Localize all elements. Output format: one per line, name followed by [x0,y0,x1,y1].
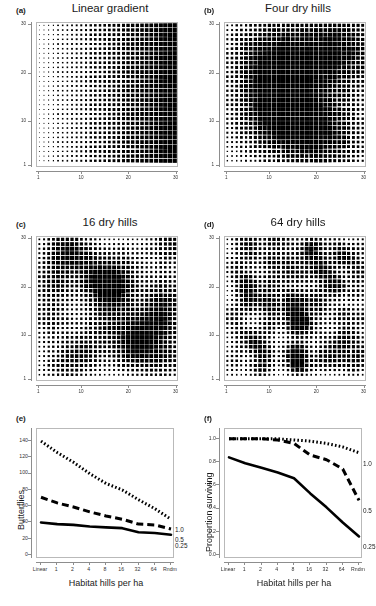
panel-b-letter: (b) [204,6,214,15]
y-axis-line [219,22,220,167]
panel-b-title: Four dry hills [228,2,368,14]
y-axis-tick [28,24,31,25]
y-axis-tick [216,73,219,74]
panel-f-plot-area [224,428,362,558]
curve-label-0-25: 0.25 [363,543,375,550]
x-axis-tick [154,562,155,565]
panel-e-yaxis-title: Butterflies [16,490,26,530]
y-axis-tick [216,438,219,439]
x-axis-tick [105,562,106,565]
y-axis-tick-label: 10 [14,118,26,123]
y-axis-line [219,236,220,381]
y-axis-line [219,428,220,558]
x-axis-tick-label: 30 [359,175,369,180]
x-axis-tick-label: 10 [264,175,274,180]
y-axis-tick [216,287,219,288]
x-axis-tick [176,385,177,388]
x-axis-tick [81,171,82,174]
x-axis-tick-label: 10 [76,175,86,180]
x-axis-tick [293,562,294,565]
y-axis-tick-label: 20 [14,284,26,289]
y-axis-tick [28,379,31,380]
x-axis-tick [170,562,171,565]
y-axis-tick [28,489,31,490]
x-axis-tick-label: 1 [33,175,43,180]
series-line-1-0 [229,439,359,453]
x-axis-tick [364,385,365,388]
y-axis-tick [216,335,219,336]
x-axis-tick [342,562,343,565]
x-axis-tick [121,562,122,565]
y-axis-tick [28,287,31,288]
x-axis-tick [89,562,90,565]
x-axis-tick [358,562,359,565]
x-axis-tick [269,171,270,174]
x-axis-tick [38,385,39,388]
x-axis-tick [40,562,41,565]
curve-label-0-25: 0.25 [175,542,187,549]
y-axis-tick-label: 30 [202,21,214,26]
y-axis-tick-label: 1.0 [199,435,216,441]
y-axis-tick [28,538,31,539]
x-axis-tick [269,385,270,388]
x-axis-tick [128,385,129,388]
y-axis-tick [216,121,219,122]
x-axis-tick-label: 20 [311,175,321,180]
panel-a-dot-grid [37,23,177,166]
x-axis-tick-label: 1 [221,175,231,180]
y-axis-tick-label: 1 [14,162,26,167]
panel-c-dot-grid [37,237,177,380]
y-axis-tick [28,73,31,74]
y-axis-tick-label: 20 [202,284,214,289]
y-axis-tick-label: 30 [14,235,26,240]
x-axis-tick [364,171,365,174]
y-axis-tick [216,461,219,462]
curve-label-1-0: 1.0 [175,526,184,533]
x-axis-tick-label: 20 [311,389,321,394]
x-axis-tick [81,385,82,388]
x-axis-tick [226,171,227,174]
panel-c-title: 16 dry hills [40,216,180,228]
x-axis-tick-label: 1 [33,389,43,394]
panel-d-letter: (d) [204,220,214,229]
x-axis-tick [128,171,129,174]
x-axis-tick [138,562,139,565]
y-axis-tick-label: 20 [11,535,28,541]
y-axis-tick [28,456,31,457]
y-axis-tick-label: 30 [14,21,26,26]
y-axis-tick-label: 0.8 [199,458,216,464]
panel-e-letter: (e) [16,414,26,423]
panel-f-letter: (f) [204,414,212,423]
y-axis-tick [28,440,31,441]
y-axis-tick [28,335,31,336]
panel-d-dot-grid [225,237,365,380]
x-axis-tick [56,562,57,565]
x-axis-line [224,171,366,172]
y-axis-tick [28,521,31,522]
y-axis-tick-label: 20 [14,70,26,75]
panel-d-map [224,236,366,381]
y-axis-tick [28,165,31,166]
panel-d-title: 64 dry hills [228,216,368,228]
x-axis-line [36,385,178,386]
x-axis-tick [261,562,262,565]
curve-label-1-0: 1.0 [363,460,372,467]
x-axis-tick [316,385,317,388]
series-line-0-25 [229,457,359,536]
x-axis-tick [244,562,245,565]
y-axis-line [31,236,32,381]
series-line-1-0 [41,441,171,519]
y-axis-tick-label: 20 [202,70,214,75]
figure-root: (a) Linear gradient 11020301102030 (b) F… [0,0,376,606]
y-axis-tick-label: 0 [11,551,28,557]
panel-a-title: Linear gradient [40,2,180,14]
x-axis-tick [316,171,317,174]
y-axis-tick-label: 1 [202,376,214,381]
x-axis-tick [38,171,39,174]
x-axis-tick-label: Rndm [157,566,183,572]
x-axis-tick-label: Rndm [345,566,371,572]
y-axis-tick [216,508,219,509]
x-axis-tick-label: 20 [123,175,133,180]
y-axis-tick-label: 10 [14,332,26,337]
x-axis-tick-label: 10 [264,389,274,394]
